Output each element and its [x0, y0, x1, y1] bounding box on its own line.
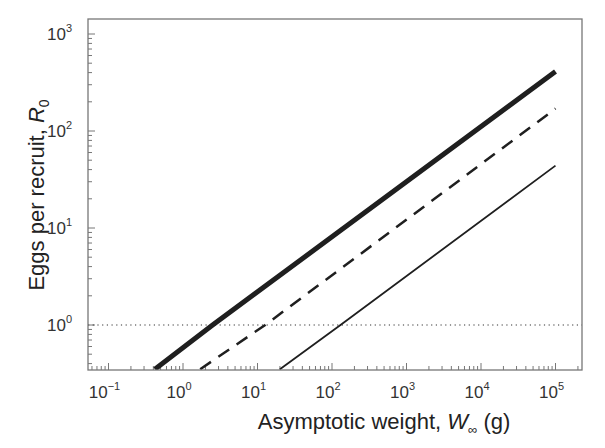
- plot-frame: [88, 19, 582, 370]
- series-line-2: [200, 109, 555, 370]
- y-tick-label: 101: [47, 216, 72, 238]
- x-tick-label: 105: [539, 380, 564, 402]
- chart: 10−1100101102103104105 100101102103 Asym…: [0, 0, 605, 448]
- x-tick-label: 103: [390, 380, 415, 402]
- axis-ticks: [88, 34, 578, 370]
- series-line-1: [155, 72, 556, 370]
- y-axis-label: Eggs per recruit, R0: [24, 99, 52, 290]
- x-tick-label: 102: [315, 380, 340, 402]
- x-axis-label: Asymptotic weight, W∞ (g): [258, 409, 511, 437]
- series-line-3: [280, 166, 556, 370]
- y-tick-label: 103: [47, 22, 72, 44]
- data-series: [155, 72, 556, 370]
- x-tick-label: 104: [464, 380, 489, 402]
- y-tick-label: 100: [47, 313, 72, 335]
- x-tick-label: 100: [166, 380, 191, 402]
- y-tick-label: 102: [47, 119, 72, 141]
- y-tick-labels: 100101102103: [47, 22, 72, 335]
- x-tick-labels: 10−1100101102103104105: [89, 380, 564, 402]
- x-tick-label: 10−1: [89, 380, 120, 402]
- x-tick-label: 101: [241, 380, 266, 402]
